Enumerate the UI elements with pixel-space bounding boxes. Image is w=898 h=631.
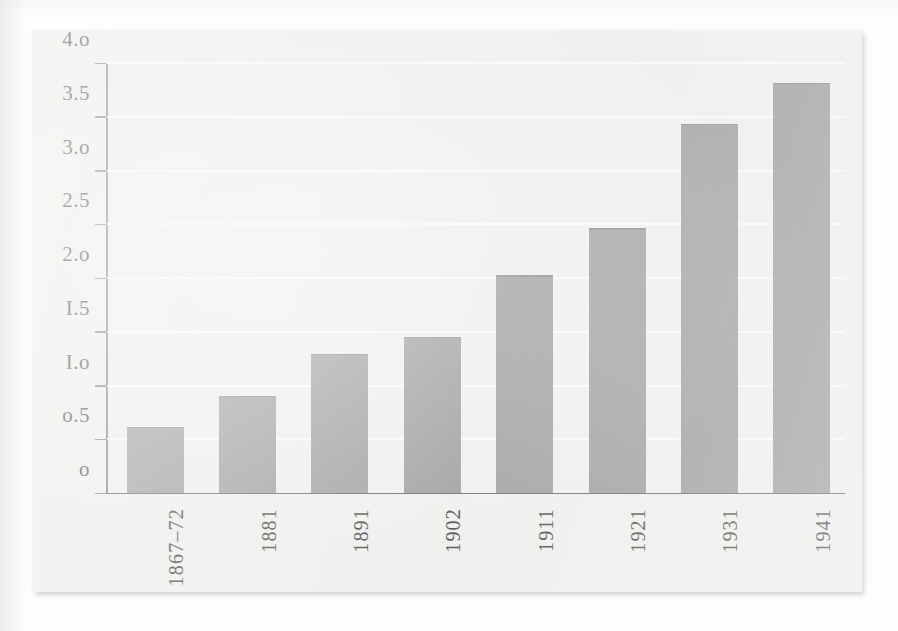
y-axis-tick-label: 4.o xyxy=(62,27,90,52)
y-axis-tick-label: 3.o xyxy=(62,134,90,159)
x-axis-tick-label: 1867–72 xyxy=(165,508,188,586)
bar[interactable] xyxy=(496,275,553,492)
y-axis-tick-label: I.5 xyxy=(66,295,90,320)
y-axis-tick xyxy=(95,493,106,495)
y-axis-tick xyxy=(95,439,106,441)
bar[interactable] xyxy=(127,427,184,493)
bar[interactable] xyxy=(219,396,276,493)
y-axis-tick-label: I.o xyxy=(66,349,90,374)
y-axis-tick xyxy=(95,224,106,226)
bar[interactable] xyxy=(773,83,830,493)
x-axis-tick-label: 1921 xyxy=(627,508,650,553)
page-background: oo.5I.oI.52.o2.53.o3.54.o 1867–721881189… xyxy=(0,0,898,631)
x-axis-tick-label: 1931 xyxy=(719,508,742,553)
y-axis-line xyxy=(106,64,108,494)
bar[interactable] xyxy=(311,354,368,493)
x-axis-tick-label: 1941 xyxy=(812,508,835,553)
x-axis-tick-label: 1881 xyxy=(258,508,281,553)
x-axis-tick-label: 1902 xyxy=(442,508,465,553)
y-axis-tick xyxy=(95,331,106,333)
y-axis-tick xyxy=(95,63,106,65)
y-axis-tick xyxy=(95,116,106,118)
x-axis-tick-label: 1911 xyxy=(535,508,558,552)
y-axis-tick xyxy=(95,278,106,280)
y-axis-tick-label: 3.5 xyxy=(62,80,90,105)
y-axis-tick-label: o.5 xyxy=(62,403,90,428)
bar[interactable] xyxy=(404,337,461,493)
x-axis-tick-label: 1891 xyxy=(350,508,373,553)
x-axis-line xyxy=(106,493,845,495)
y-axis-tick-label: 2.5 xyxy=(62,188,90,213)
y-axis-tick-label: o xyxy=(79,457,90,482)
y-axis-tick xyxy=(95,385,106,387)
gridline xyxy=(107,116,845,118)
bar[interactable] xyxy=(681,124,738,493)
bar[interactable] xyxy=(589,228,646,492)
y-axis-tick xyxy=(95,170,106,172)
y-axis-tick-label: 2.o xyxy=(62,242,90,267)
scanned-plate: oo.5I.oI.52.o2.53.o3.54.o 1867–721881189… xyxy=(33,30,862,592)
plot-area: oo.5I.oI.52.o2.53.o3.54.o 1867–721881189… xyxy=(106,64,845,494)
gridline xyxy=(107,62,845,64)
